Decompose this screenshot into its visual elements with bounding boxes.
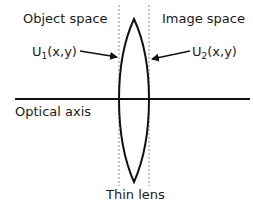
u2-suffix: (x,y) <box>207 44 237 59</box>
object-space-label: Object space <box>23 12 108 25</box>
u1-arrow <box>80 51 117 57</box>
u2-arrow <box>152 51 190 59</box>
optical-axis-label: Optical axis <box>15 105 91 118</box>
thin-lens-shape <box>119 19 149 182</box>
u2-prefix: U <box>192 44 202 59</box>
u2-label: U2(x,y) <box>192 45 237 61</box>
u1-prefix: U <box>32 44 42 59</box>
thin-lens-label: Thin lens <box>106 188 165 201</box>
image-space-label: Image space <box>162 12 245 25</box>
u1-suffix: (x,y) <box>47 44 77 59</box>
thin-lens-diagram: Object space Image space U1(x,y) U2(x,y)… <box>0 0 253 209</box>
u1-label: U1(x,y) <box>32 45 77 61</box>
